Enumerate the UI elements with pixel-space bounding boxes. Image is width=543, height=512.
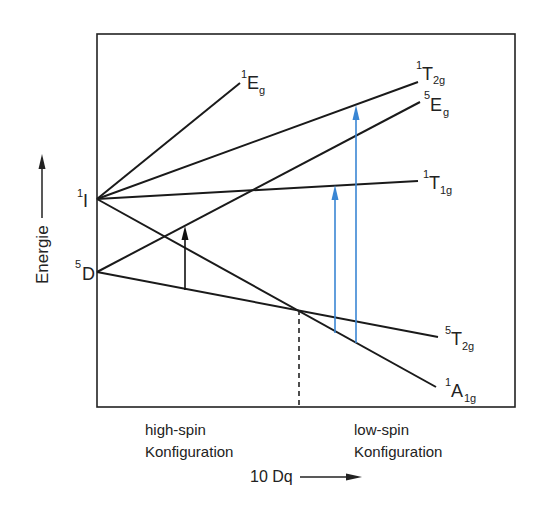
svg-text:low-spin: low-spin — [354, 421, 409, 438]
arrow-ls-head-1-icon — [332, 185, 339, 200]
term-label-1T1g: 1 T 1g — [423, 168, 452, 196]
line-1T2g — [97, 82, 418, 199]
svg-text:Konfiguration: Konfiguration — [354, 443, 442, 460]
svg-text:T: T — [422, 64, 433, 84]
term-label-5T2g: 5 T 2g — [445, 324, 474, 352]
high-spin-label: high-spin Konfiguration — [145, 421, 233, 460]
term-label-1T2g: 1 T 2g — [416, 59, 445, 86]
svg-text:E: E — [430, 95, 442, 115]
svg-text:Konfiguration: Konfiguration — [145, 443, 233, 460]
svg-text:A: A — [451, 381, 463, 401]
line-1A1g — [97, 199, 436, 387]
dq-axis-arrow-head-icon — [346, 474, 362, 481]
line-5T2g — [97, 272, 438, 337]
y-axis-label: Energie — [33, 225, 52, 284]
x-axis-label: 10 Dq — [250, 468, 293, 485]
svg-text:g: g — [259, 84, 265, 96]
svg-text:1g: 1g — [440, 184, 452, 196]
line-1T1g — [97, 181, 418, 199]
term-diagram: Energie 10 Dq 1 I 5 D 1 E g 1 T 2g 5 E g… — [0, 0, 543, 512]
svg-text:2g: 2g — [462, 340, 474, 352]
plot-frame — [97, 34, 515, 407]
line-1Eg — [97, 83, 240, 199]
line-5Eg — [97, 102, 420, 272]
svg-text:T: T — [429, 173, 440, 193]
svg-text:E: E — [247, 73, 259, 93]
term-label-1A1g: 1 A 1g — [445, 376, 476, 404]
term-label-5D: 5 D — [75, 258, 95, 284]
term-label-1Eg: 1 E g — [241, 68, 265, 96]
svg-text:2g: 2g — [433, 74, 445, 86]
term-label-1I: 1 I — [77, 187, 88, 211]
arrow-ls-head-2-icon — [353, 105, 360, 120]
term-label-5Eg: 5 E g — [424, 89, 449, 118]
svg-text:T: T — [451, 329, 462, 349]
svg-text:5: 5 — [75, 258, 81, 270]
svg-text:D: D — [82, 264, 95, 284]
energy-axis-arrow-head-icon — [39, 154, 46, 169]
svg-text:1g: 1g — [464, 392, 476, 404]
svg-text:g: g — [443, 106, 449, 118]
low-spin-label: low-spin Konfiguration — [354, 421, 442, 460]
svg-text:I: I — [83, 191, 88, 211]
svg-text:high-spin: high-spin — [145, 421, 206, 438]
